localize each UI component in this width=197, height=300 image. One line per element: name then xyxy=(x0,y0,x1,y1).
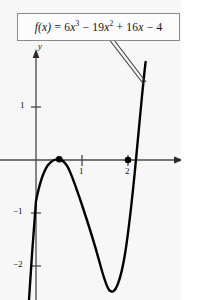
formula-term4: 4 xyxy=(156,21,162,33)
formula-op2: + xyxy=(117,21,124,33)
formula-equals: = xyxy=(54,21,61,33)
root-marker-two xyxy=(125,157,132,164)
right-margin-strip xyxy=(181,0,197,300)
figure-canvas: 1 −1 −2 1 2 y x f(x) = 6x3 − 19x2 + 16x … xyxy=(0,0,197,300)
formula-lhs: f(x) xyxy=(35,21,52,33)
formula-op3: − xyxy=(147,21,154,33)
formula-term1-exp: 3 xyxy=(76,19,80,28)
y-axis-label: y xyxy=(38,41,42,51)
formula-term3-coef: 16 xyxy=(126,21,138,33)
x-tick-label-2: 2 xyxy=(125,166,130,176)
x-tick-label-1: 1 xyxy=(79,166,84,176)
formula-term3-var: x xyxy=(138,21,143,33)
y-tick-label-neg1: −1 xyxy=(13,206,23,216)
function-plot xyxy=(0,0,197,300)
formula-term2-exp: 2 xyxy=(110,19,114,28)
x-axis xyxy=(0,157,183,164)
formula-op1: − xyxy=(83,21,90,33)
formula-text: f(x) = 6x3 − 19x2 + 16x − 4 xyxy=(35,21,163,33)
formula-term2-coef: 19 xyxy=(92,21,104,33)
function-curve xyxy=(29,62,146,300)
root-marker-half xyxy=(56,156,63,163)
formula-callout-box: f(x) = 6x3 − 19x2 + 16x − 4 xyxy=(17,13,180,41)
y-tick-label-neg2: −2 xyxy=(13,259,23,269)
y-tick-label-1: 1 xyxy=(20,100,25,110)
callout-leader-line xyxy=(108,38,146,84)
y-axis xyxy=(33,49,40,300)
